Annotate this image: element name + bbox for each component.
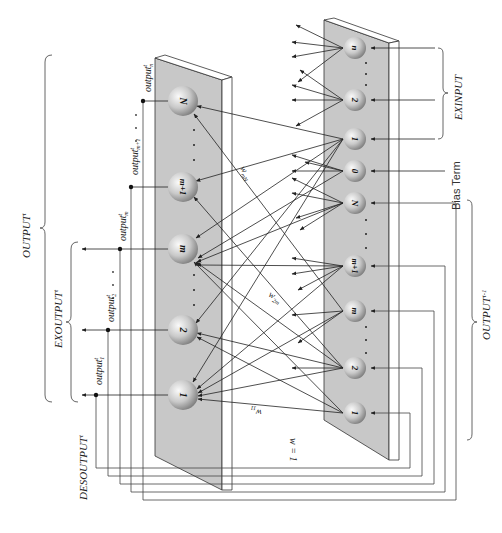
label-output-n: outputtn bbox=[142, 64, 154, 92]
svg-text:m+1: m+1 bbox=[178, 179, 188, 196]
svg-text:2: 2 bbox=[350, 365, 360, 371]
output-labels: outputtn outputtm+1 outputtm outputt2 ou… bbox=[93, 64, 154, 385]
svg-text:1: 1 bbox=[178, 393, 189, 398]
svg-text:n: n bbox=[350, 45, 360, 50]
input-node-1-rec: 1 bbox=[344, 402, 366, 424]
input-node-0-bias: 0 bbox=[344, 160, 366, 182]
input-node-2-rec: 2 bbox=[344, 357, 366, 379]
label-w-11: w11 bbox=[250, 405, 263, 418]
svg-text:1: 1 bbox=[350, 411, 360, 416]
input-node-n: n bbox=[344, 37, 366, 59]
output-node-N: N bbox=[168, 86, 198, 116]
input-node-1-ex: 1 bbox=[344, 128, 366, 150]
input-node-2-ex: 2 bbox=[344, 89, 366, 111]
label-w-equals-1: w = 1 bbox=[288, 438, 299, 461]
label-bias-term: Bias Term bbox=[450, 161, 462, 210]
label-exinput: EXINPUT bbox=[452, 74, 464, 121]
input-node-m-plus-1: m+1 bbox=[344, 255, 366, 277]
label-output-2: outputt2 bbox=[105, 294, 117, 322]
svg-text:m: m bbox=[350, 307, 360, 314]
label-output-m-plus-1: outputtm+1 bbox=[129, 138, 141, 175]
output-node-1: 1 bbox=[168, 380, 198, 410]
output-ellipsis-dots bbox=[112, 114, 137, 299]
label-exoutput-t: EXOUTPUTt bbox=[52, 289, 64, 349]
output-node-m: m bbox=[168, 234, 198, 264]
braces bbox=[40, 48, 477, 440]
svg-text:m: m bbox=[178, 245, 189, 253]
output-node-m-plus-1: m+1 bbox=[168, 172, 198, 202]
label-output-t: OUTPUTt bbox=[20, 212, 32, 258]
svg-text:1: 1 bbox=[350, 137, 360, 142]
label-output-m: outputtm bbox=[117, 211, 129, 241]
output-node-2: 2 bbox=[168, 315, 198, 345]
input-node-m: m bbox=[344, 300, 366, 322]
label-output-t-minus-1: OUTPUTt-1 bbox=[480, 289, 492, 340]
input-layer-panel bbox=[324, 18, 399, 460]
svg-text:m+1: m+1 bbox=[350, 259, 359, 274]
output-layer-panel bbox=[155, 55, 232, 490]
rnn-diagram: N m+1 m 2 1 n 2 1 bbox=[0, 0, 502, 533]
label-output-1: outputt1 bbox=[93, 357, 105, 385]
svg-text:0: 0 bbox=[350, 169, 360, 174]
svg-text:2: 2 bbox=[178, 327, 189, 333]
svg-text:N: N bbox=[350, 199, 360, 207]
input-node-N: N bbox=[344, 192, 366, 214]
svg-text:N: N bbox=[178, 96, 189, 105]
svg-text:2: 2 bbox=[350, 97, 360, 103]
label-desoutput-t: DESOUTPUTt bbox=[77, 434, 89, 501]
